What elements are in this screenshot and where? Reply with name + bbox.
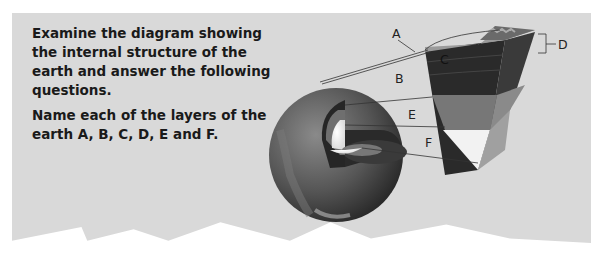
label-e: E bbox=[408, 107, 416, 122]
earth-layers-wedge bbox=[425, 26, 535, 175]
label-d: D bbox=[558, 37, 568, 52]
label-b: B bbox=[395, 71, 404, 86]
earth-structure-diagram: A B C D E F bbox=[0, 0, 603, 255]
label-c: C bbox=[440, 52, 449, 67]
earth-globe bbox=[269, 82, 407, 222]
label-f: F bbox=[425, 135, 432, 150]
label-a: A bbox=[392, 26, 401, 41]
